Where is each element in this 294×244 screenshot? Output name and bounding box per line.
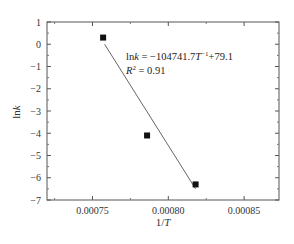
data-point-marker xyxy=(193,181,199,187)
y-axis-label: lnk xyxy=(10,104,22,119)
y-tick-label: 1 xyxy=(36,17,41,28)
y-tick-label: 0 xyxy=(36,39,41,50)
data-point-marker xyxy=(144,132,150,138)
y-tick-label: −3 xyxy=(30,106,41,117)
x-tick-label: 0.00080 xyxy=(152,205,185,216)
y-tick-label: −7 xyxy=(30,195,41,206)
x-tick-label: 0.00075 xyxy=(76,205,109,216)
chart: 10−1−2−3−4−5−6−7 0.000750.000800.00085 l… xyxy=(0,0,294,244)
data-point-marker xyxy=(100,35,106,41)
x-tick-label: 0.00085 xyxy=(228,205,261,216)
y-tick-label: −2 xyxy=(30,83,41,94)
equation-annotation: lnk = −104741.7T−1+79.1 xyxy=(126,50,233,62)
plot-frame xyxy=(47,22,279,200)
y-tick-label: −1 xyxy=(30,61,41,72)
y-tick-label: −4 xyxy=(30,128,41,139)
r-squared-annotation: R2 = 0.91 xyxy=(125,64,165,76)
y-axis: 10−1−2−3−4−5−6−7 xyxy=(30,17,279,206)
x-axis-label: 1/T xyxy=(156,216,172,228)
y-tick-label: −6 xyxy=(30,172,41,183)
y-tick-label: −5 xyxy=(30,150,41,161)
